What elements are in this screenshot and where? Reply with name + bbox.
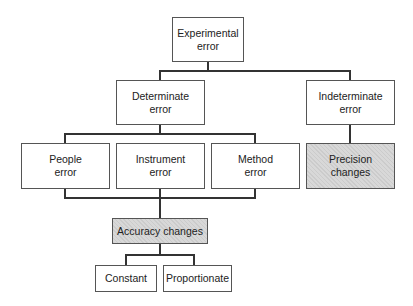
connector	[159, 70, 161, 80]
node-determinate-error: Determinate error	[116, 80, 205, 125]
node-people-error: People error	[21, 143, 110, 189]
node-accuracy-changes: Accuracy changes	[112, 218, 208, 244]
connector	[64, 133, 66, 143]
node-method-error: Method error	[211, 143, 300, 189]
connector	[254, 133, 256, 143]
node-constant: Constant	[95, 265, 157, 292]
connector	[193, 254, 195, 265]
connector	[125, 254, 127, 265]
connector	[349, 124, 351, 143]
node-experimental-error: Experimental error	[172, 17, 244, 62]
node-indeterminate-error: Indeterminate error	[306, 80, 395, 125]
connector	[159, 188, 161, 218]
connector	[159, 70, 351, 72]
node-proportionate: Proportionate	[163, 265, 232, 292]
error-classification-diagram: Experimental error Determinate error Ind…	[0, 0, 413, 306]
node-precision-changes: Precision changes	[306, 143, 395, 189]
connector	[349, 70, 351, 80]
connector	[64, 133, 256, 135]
node-instrument-error: Instrument error	[116, 143, 205, 189]
connector	[125, 254, 195, 256]
